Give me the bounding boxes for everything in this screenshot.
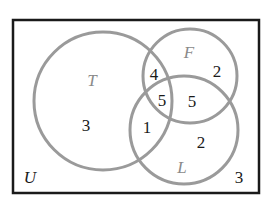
region-t-and-f: 4 <box>150 65 159 84</box>
region-t-only: 3 <box>82 116 91 135</box>
venn-diagram: T F L U 3 2 2 4 1 5 5 3 <box>0 0 275 199</box>
region-t-and-l: 1 <box>143 118 152 137</box>
set-f-label: F <box>183 43 195 62</box>
region-f-and-l: 5 <box>188 92 197 111</box>
set-t-label: T <box>87 71 98 90</box>
region-t-f-l: 5 <box>158 91 167 110</box>
region-none: 3 <box>235 168 244 187</box>
region-l-only: 2 <box>197 133 206 152</box>
set-l-label: L <box>176 158 186 177</box>
region-f-only: 2 <box>213 62 222 81</box>
universe-label: U <box>24 168 38 187</box>
